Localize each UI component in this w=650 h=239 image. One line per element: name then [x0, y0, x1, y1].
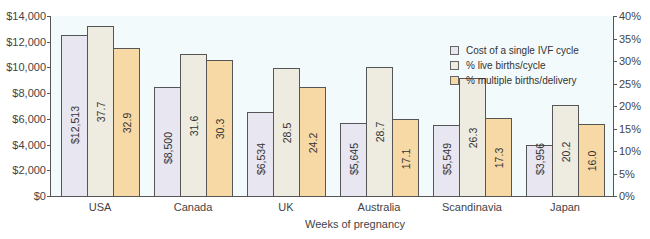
right-y-tick [614, 129, 617, 130]
right-y-tick-label: 15% [619, 123, 641, 135]
bar-mult: 24.2 [299, 87, 326, 197]
legend-label: Cost of a single IVF cycle [466, 45, 579, 56]
left-y-tick-label: $14,000 [6, 10, 46, 22]
bar-value-label: 17.1 [400, 148, 412, 168]
right-y-tick-label: 30% [619, 55, 641, 67]
bar-cost: $5,645 [340, 123, 367, 197]
legend-item-live-births: % live births/cycle [450, 58, 579, 73]
left-y-tick [47, 196, 50, 197]
right-y-tick [614, 174, 617, 175]
right-y-tick-label: 0% [619, 190, 635, 202]
right-y-tick-label: 10% [619, 145, 641, 157]
left-y-tick [47, 42, 50, 43]
bar-value-label: 31.6 [188, 116, 200, 136]
left-y-tick [47, 170, 50, 171]
bar-cost: $6,534 [247, 112, 274, 197]
legend-label: % live births/cycle [466, 60, 545, 71]
bar-value-label: 24.2 [307, 132, 319, 152]
right-y-tick [614, 84, 617, 85]
left-y-tick-label: $0 [34, 190, 46, 202]
left-y-tick [47, 67, 50, 68]
left-y-tick [47, 16, 50, 17]
bar-live: 28.7 [366, 67, 393, 197]
bar-cost: $8,500 [154, 87, 181, 197]
right-y-tick [614, 151, 617, 152]
left-y-tick-label: $2,000 [12, 164, 46, 176]
bar-value-label: 32.9 [121, 113, 133, 133]
bar-cost: $5,549 [433, 125, 460, 197]
left-y-tick [47, 145, 50, 146]
x-tick-label: Scandinavia [442, 201, 502, 213]
x-tick-label: Canada [174, 201, 213, 213]
bar-value-label: $3,956 [534, 143, 546, 175]
bar-value-label: $5,549 [441, 143, 453, 175]
right-y-tick [614, 16, 617, 17]
left-y-tick [47, 93, 50, 94]
right-y-tick-label: 25% [619, 78, 641, 90]
legend: Cost of a single IVF cycle % live births… [450, 43, 579, 88]
bar-live: 26.3 [459, 78, 486, 197]
x-tick-label: UK [278, 201, 293, 213]
legend-swatch-cost [450, 46, 459, 55]
left-y-tick [47, 119, 50, 120]
x-axis-title: Weeks of pregnancy [305, 218, 405, 230]
bar-live: 31.6 [180, 54, 207, 197]
bar-cost: $3,956 [526, 145, 553, 197]
left-axis-line [50, 16, 51, 197]
bar-mult: 32.9 [113, 48, 140, 197]
left-y-tick-label: $8,000 [12, 87, 46, 99]
bar-value-label: 26.3 [467, 128, 479, 148]
bar-live: 28.5 [273, 68, 300, 197]
bar-value-label: $5,645 [348, 143, 360, 175]
bar-mult: 17.3 [485, 118, 512, 197]
bar-live: 37.7 [87, 26, 114, 197]
right-y-tick-label: 35% [619, 33, 641, 45]
bar-value-label: 28.5 [281, 123, 293, 143]
bar-value-label: $8,500 [162, 132, 174, 164]
left-y-tick-label: $4,000 [12, 139, 46, 151]
bar-live: 20.2 [552, 105, 579, 197]
right-y-tick-label: 40% [619, 10, 641, 22]
x-tick-label: USA [89, 201, 112, 213]
x-tick-label: Australia [358, 201, 401, 213]
bar-cost: $12,513 [61, 35, 88, 197]
bar-value-label: 16.0 [586, 151, 598, 171]
right-y-tick-label: 5% [619, 168, 635, 180]
bar-value-label: 17.3 [493, 148, 505, 168]
bar-value-label: 20.2 [560, 141, 572, 161]
x-tick-label: Japan [550, 201, 580, 213]
bar-mult: 16.0 [578, 124, 605, 197]
legend-label: % multiple births/delivery [466, 75, 577, 86]
bar-value-label: $12,513 [69, 106, 81, 144]
right-y-tick [614, 61, 617, 62]
right-y-tick [614, 106, 617, 107]
left-y-tick-label: $6,000 [12, 113, 46, 125]
left-y-tick-label: $10,000 [6, 61, 46, 73]
legend-swatch-live-births [450, 61, 459, 70]
bar-value-label: 28.7 [374, 122, 386, 142]
bar-value-label: 37.7 [95, 102, 107, 122]
right-y-tick [614, 39, 617, 40]
bar-value-label: 30.3 [214, 119, 226, 139]
bar-mult: 30.3 [206, 60, 233, 197]
right-y-tick-label: 20% [619, 100, 641, 112]
bar-value-label: $6,534 [255, 143, 267, 175]
right-y-tick [614, 196, 617, 197]
legend-item-multiple-births: % multiple births/delivery [450, 73, 579, 88]
left-y-tick-label: $12,000 [6, 36, 46, 48]
legend-item-cost: Cost of a single IVF cycle [450, 43, 579, 58]
legend-swatch-multiple-births [450, 76, 459, 85]
bar-mult: 17.1 [392, 119, 419, 197]
